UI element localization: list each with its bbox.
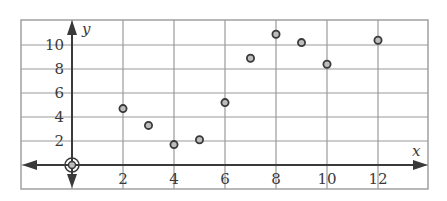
data-point <box>272 31 279 38</box>
data-point <box>323 61 330 68</box>
y-tick-label: 6 <box>54 84 64 102</box>
x-tick-label: 4 <box>169 170 179 188</box>
scatter-chart: 24681012246810 x y <box>0 0 447 201</box>
data-point <box>374 37 381 44</box>
y-axis-arrow-down-icon <box>67 174 77 188</box>
x-tick-label: 8 <box>271 170 281 188</box>
data-point <box>145 122 152 129</box>
x-axis-arrow-right-icon <box>413 160 428 170</box>
data-point <box>119 105 126 112</box>
data-point <box>196 136 203 143</box>
data-point <box>247 55 254 62</box>
data-point <box>221 99 228 106</box>
y-tick-label: 10 <box>45 36 64 54</box>
x-tick-label: 2 <box>118 170 128 188</box>
x-tick-label: 6 <box>220 170 230 188</box>
data-point <box>170 141 177 148</box>
y-tick-label: 4 <box>54 108 64 126</box>
data-points <box>119 31 381 149</box>
x-tick-label: 12 <box>368 170 387 188</box>
x-tick-label: 10 <box>317 170 336 188</box>
x-axis-arrow-left-icon <box>22 160 37 170</box>
y-axis-arrow-up-icon <box>67 20 77 35</box>
x-axis-label: x <box>412 142 421 160</box>
y-tick-label: 2 <box>54 132 64 150</box>
y-axis-label: y <box>81 20 91 38</box>
y-tick-label: 8 <box>54 60 64 78</box>
data-point <box>298 39 305 46</box>
